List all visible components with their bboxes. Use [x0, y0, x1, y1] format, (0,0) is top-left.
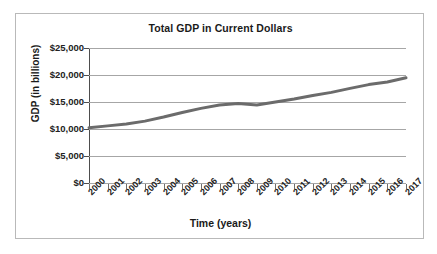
gdp-line — [89, 78, 406, 128]
y-axis-tick — [84, 102, 89, 103]
y-axis-tick-label: $25,000 — [26, 42, 84, 53]
y-axis-tick-label: $5,000 — [26, 150, 84, 161]
y-axis-tick — [84, 183, 89, 184]
y-axis-tick — [84, 156, 89, 157]
y-axis-tick — [84, 75, 89, 76]
x-axis-tick-label: 2017 — [403, 176, 424, 197]
y-axis-tick-labels: $25,000$20,000$15,000$10,000$5,000$0 — [21, 14, 84, 240]
y-axis-tick — [84, 129, 89, 130]
y-axis-tick — [84, 48, 89, 49]
chart-container: Total GDP in Current Dollars GDP (in bil… — [15, 13, 424, 239]
x-axis-title: Time (years) — [16, 217, 425, 229]
data-series-line — [89, 48, 406, 183]
plot-area — [89, 48, 406, 183]
y-axis-tick-label: $15,000 — [26, 96, 84, 107]
y-axis-tick-label: $10,000 — [26, 123, 84, 134]
y-axis-tick-label: $0 — [26, 177, 84, 188]
y-axis-tick-label: $20,000 — [26, 69, 84, 80]
